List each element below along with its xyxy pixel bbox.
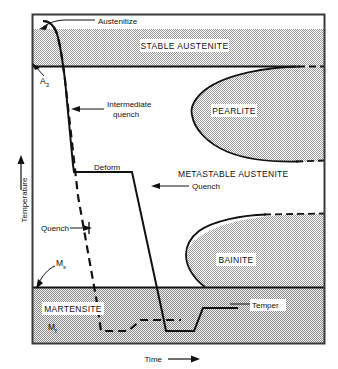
x-axis-label: Time [145, 355, 163, 364]
temper-label-group: Temper [250, 299, 286, 311]
intermediate-quench-label-line2: quench [113, 110, 139, 119]
quench-left-label: Quench [41, 224, 69, 233]
martensite-region [32, 287, 325, 344]
bainite-label-group: BAINITE [216, 253, 256, 266]
stable-austenite-label-group: STABLE AUSTENITE [140, 39, 229, 52]
pearlite-label-group: PEARLITE [211, 104, 257, 117]
metastable-austenite-label: METASTABLE AUSTENITE [178, 169, 289, 179]
martensite-label-group: MARTENSITE [42, 302, 104, 315]
bainite-label: BAINITE [218, 255, 253, 265]
stable-austenite-label: STABLE AUSTENITE [141, 41, 229, 51]
martensite-label: MARTENSITE [44, 304, 102, 314]
deform-label: Deform [94, 163, 121, 172]
ttt-diagram-svg: Austenitize A3 STABLE AUSTENITE Intermed… [0, 0, 338, 369]
austenitize-label: Austenitize [98, 17, 138, 26]
pearlite-label: PEARLITE [212, 106, 256, 116]
quench-right-label: Quench [192, 182, 220, 191]
pearlite-curve-lower-dashed-tail [296, 161, 325, 162]
y-axis-label: Temperature [20, 177, 29, 222]
temper-label: Temper [252, 301, 279, 310]
intermediate-quench-label-line1: Intermediate [107, 100, 152, 109]
ttt-diagram-figure: Austenitize A3 STABLE AUSTENITE Intermed… [0, 0, 338, 369]
plot-area [32, 14, 325, 344]
